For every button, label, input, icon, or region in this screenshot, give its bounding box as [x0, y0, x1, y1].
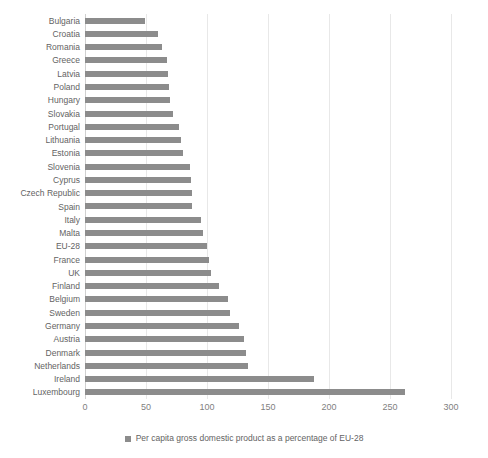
bar	[85, 84, 169, 90]
legend-swatch-icon	[125, 436, 131, 442]
bar-row	[85, 41, 451, 54]
bar	[85, 137, 181, 143]
bar-row	[85, 266, 451, 279]
bar-row	[85, 200, 451, 213]
bar	[85, 283, 219, 289]
category-axis-labels: BulgariaCroatiaRomaniaGreeceLatviaPoland…	[0, 14, 80, 399]
bar	[85, 350, 246, 356]
category-label: Bulgaria	[0, 16, 80, 26]
bar	[85, 44, 162, 50]
category-label: Latvia	[0, 69, 80, 79]
bar-row	[85, 293, 451, 306]
category-label: EU-28	[0, 241, 80, 251]
bar	[85, 217, 201, 223]
bar-row	[85, 359, 451, 372]
bar	[85, 18, 145, 24]
bar-row	[85, 319, 451, 332]
bar-row	[85, 27, 451, 40]
x-tick-label: 100	[199, 402, 214, 413]
category-label: Slovakia	[0, 109, 80, 119]
gridline-300	[451, 14, 452, 399]
bar	[85, 124, 179, 130]
bar	[85, 57, 167, 63]
category-label: Greece	[0, 55, 80, 65]
bar-row	[85, 386, 451, 399]
bar	[85, 31, 158, 37]
legend-label: Per capita gross domestic product as a p…	[136, 433, 364, 444]
x-tick-label: 50	[141, 402, 151, 413]
category-label: Croatia	[0, 29, 80, 39]
bar-row	[85, 160, 451, 173]
bar-row	[85, 372, 451, 385]
bar-row	[85, 14, 451, 27]
x-tick-label: 0	[82, 402, 87, 413]
bar	[85, 257, 209, 263]
x-tick-label: 300	[443, 402, 458, 413]
category-label: Luxembourg	[0, 387, 80, 397]
category-label: Austria	[0, 334, 80, 344]
bar-row	[85, 67, 451, 80]
bar	[85, 363, 248, 369]
bar-row	[85, 306, 451, 319]
bar-row	[85, 253, 451, 266]
category-label: Malta	[0, 228, 80, 238]
bar	[85, 336, 244, 342]
category-label: Hungary	[0, 95, 80, 105]
category-label: Finland	[0, 281, 80, 291]
bar	[85, 190, 192, 196]
category-label: Italy	[0, 215, 80, 225]
category-label: Czech Republic	[0, 188, 80, 198]
bar-row	[85, 94, 451, 107]
bar	[85, 230, 203, 236]
bar	[85, 296, 228, 302]
bar	[85, 150, 183, 156]
bar	[85, 243, 207, 249]
bar	[85, 71, 168, 77]
bar-row	[85, 54, 451, 67]
bar	[85, 177, 191, 183]
bar-row	[85, 187, 451, 200]
bar-row	[85, 120, 451, 133]
category-label: Poland	[0, 82, 80, 92]
x-tick-label: 150	[260, 402, 275, 413]
bar	[85, 323, 239, 329]
bar-row	[85, 80, 451, 93]
bar-row	[85, 240, 451, 253]
category-label: Sweden	[0, 308, 80, 318]
chart-legend: Per capita gross domestic product as a p…	[0, 433, 488, 444]
x-tick-label: 200	[321, 402, 336, 413]
plot-area	[85, 14, 451, 399]
bar	[85, 203, 192, 209]
category-label: Netherlands	[0, 361, 80, 371]
category-label: Portugal	[0, 122, 80, 132]
category-label: Estonia	[0, 148, 80, 158]
category-label: Slovenia	[0, 162, 80, 172]
bar	[85, 376, 314, 382]
bar-row	[85, 213, 451, 226]
bar-row	[85, 107, 451, 120]
category-label: Romania	[0, 42, 80, 52]
bar-row	[85, 280, 451, 293]
bar	[85, 310, 230, 316]
category-label: Ireland	[0, 374, 80, 384]
category-label: France	[0, 255, 80, 265]
bar	[85, 389, 405, 395]
category-label: Belgium	[0, 294, 80, 304]
value-axis: 050100150200250300	[85, 399, 451, 417]
category-label: Spain	[0, 202, 80, 212]
bar-row	[85, 346, 451, 359]
category-label: Germany	[0, 321, 80, 331]
category-label: Lithuania	[0, 135, 80, 145]
bar-row	[85, 133, 451, 146]
category-label: UK	[0, 268, 80, 278]
bar-row	[85, 147, 451, 160]
bar-row	[85, 226, 451, 239]
bar	[85, 270, 211, 276]
category-label: Denmark	[0, 348, 80, 358]
bar-row	[85, 173, 451, 186]
bar-row	[85, 333, 451, 346]
bar	[85, 97, 170, 103]
category-label: Cyprus	[0, 175, 80, 185]
bar-series	[85, 14, 451, 399]
bar-chart: BulgariaCroatiaRomaniaGreeceLatviaPoland…	[0, 0, 488, 458]
